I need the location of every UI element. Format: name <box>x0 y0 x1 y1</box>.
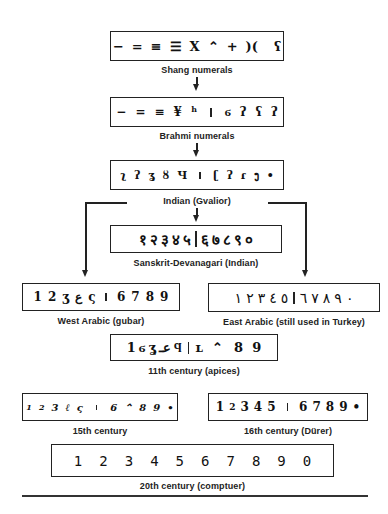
apices-numerals-box: 1 ϭ ʓ عـ ϥ ʟ ⌃ 8 9 <box>110 334 278 361</box>
16th-century-label: 16th century (Dürer) <box>208 426 368 436</box>
shang-numerals-box: − = ≡ ☰ X ⌃ + )( ʕ <box>110 31 284 61</box>
divider <box>293 292 295 304</box>
branch-left-horizontal <box>85 202 127 204</box>
west-arabic-numerals-box: 1 2 ʒ ع ς 6 7 8 9 <box>22 283 180 311</box>
gvalior-label: Indian (Gvalior) <box>130 196 264 206</box>
brahmi-label: Brahmi numerals <box>110 131 284 141</box>
apices-glyphs: 1 ϭ ʓ عـ ϥ ʟ ⌃ 8 9 <box>127 340 261 356</box>
east-arabic-numerals-box: ١ ٢ ٣ ٤ ٥ ٦ ٧ ٨ ٩ ٠ <box>208 283 380 312</box>
branch-left-vertical <box>85 202 87 272</box>
west-arabic-label: West Arabic (gubar) <box>22 316 180 326</box>
divider <box>195 231 197 247</box>
sanskrit-numerals-box: १ २ ३ ४ ५ ६ ७ ८ ९ ० <box>110 225 282 253</box>
divider <box>199 172 201 179</box>
arrow-down-icon <box>193 215 199 222</box>
16th-century-glyphs: 1 2 3 4 5 6 7 8 9 • <box>216 400 360 414</box>
apices-label: 11th century (apices) <box>110 366 278 376</box>
divider <box>210 108 212 117</box>
gvalior-numerals-box: ʅ ʔ ʓ ȣ Ч ʗ ʔ ɾ ງ • <box>110 160 284 190</box>
sanskrit-label: Sanskrit-Devanagari (Indian) <box>110 258 282 268</box>
arrow-down-icon <box>302 270 308 277</box>
divider <box>287 403 289 411</box>
shang-label: Shang numerals <box>110 65 284 75</box>
15th-century-glyphs: 1 2 3 ℓ ς 6 ⌃ 8 9 • <box>26 402 173 413</box>
16th-century-numerals-box: 1 2 3 4 5 6 7 8 9 • <box>208 393 368 421</box>
arrow-down-icon <box>193 84 199 91</box>
bottom-rule <box>22 495 368 497</box>
sanskrit-glyphs: १ २ ३ ४ ५ ६ ७ ८ ९ ० <box>139 229 253 249</box>
divider <box>105 293 107 301</box>
branch-right-horizontal <box>268 202 306 204</box>
east-arabic-label: East Arabic (still used in Turkey) <box>208 317 380 327</box>
arrow-down-icon <box>193 150 199 157</box>
gvalior-glyphs: ʅ ʔ ʓ ȣ Ч ʗ ʔ ɾ ງ • <box>120 169 274 182</box>
20th-century-label: 20th century (comptuer) <box>51 481 334 491</box>
east-arabic-glyphs: ١ ٢ ٣ ٤ ٥ ٦ ٧ ٨ ٩ ٠ <box>235 290 354 306</box>
divider <box>188 342 190 354</box>
west-arabic-glyphs: 1 2 ʒ ع ς 6 7 8 9 <box>34 290 169 304</box>
20th-century-numerals-box: 1 2 3 4 5 6 7 8 9 0 <box>51 444 334 477</box>
15th-century-label: 15th century <box>22 426 178 436</box>
brahmi-numerals-box: − = ≡ ¥ ʰ ϭ ʔ ʕ ʔ <box>110 97 284 127</box>
branch-right-vertical <box>305 202 307 272</box>
shang-glyphs: − = ≡ ☰ X ⌃ + )( ʕ <box>113 39 281 54</box>
divider <box>96 405 98 410</box>
15th-century-numerals-box: 1 2 3 ℓ ς 6 ⌃ 8 9 • <box>22 393 178 421</box>
arrow-down-icon <box>82 270 88 277</box>
20th-century-glyphs: 1 2 3 4 5 6 7 8 9 0 <box>74 453 311 469</box>
brahmi-glyphs: − = ≡ ¥ ʰ ϭ ʔ ʕ ʔ <box>116 105 277 120</box>
